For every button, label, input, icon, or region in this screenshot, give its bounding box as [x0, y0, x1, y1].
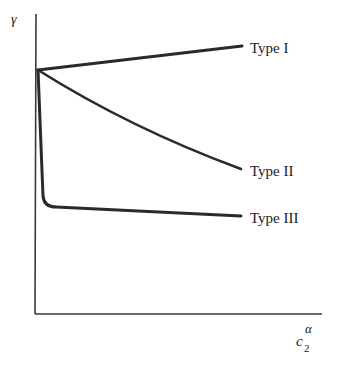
- x-axis-label-superscript: α: [305, 321, 313, 336]
- series-type-3: [38, 70, 241, 216]
- x-axis-label: c 2 α: [296, 321, 313, 354]
- series-label-type-2: Type II: [250, 163, 294, 179]
- series-type-1: [38, 46, 242, 70]
- y-axis-label: γ: [11, 12, 17, 27]
- series-label-type-1: Type I: [250, 40, 289, 56]
- x-axis-label-subscript: 2: [304, 342, 310, 354]
- x-axis-label-base: c: [296, 333, 303, 349]
- chart-canvas: γ Type I Type II Type III c 2 α: [0, 0, 344, 374]
- y-axis: [35, 14, 36, 314]
- series-label-type-3: Type III: [250, 210, 299, 226]
- series-type-2: [38, 70, 241, 169]
